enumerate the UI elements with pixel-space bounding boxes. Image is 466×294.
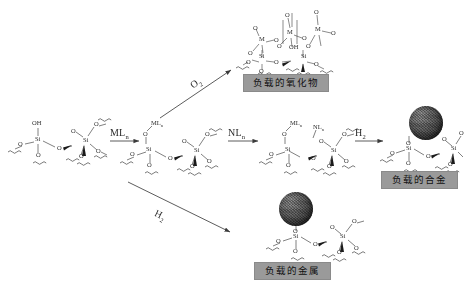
caption-supported-alloy: 负载的合金 xyxy=(381,171,458,189)
atom-o-4g: O xyxy=(248,50,253,57)
atom-o-4k: O xyxy=(274,59,279,66)
atom-o-3d: O xyxy=(311,155,316,162)
atom-o-5g: O xyxy=(354,245,359,252)
atom-ml-2: MLn xyxy=(151,120,163,129)
atom-o-2h: O xyxy=(190,163,195,170)
atom-si-6: Si xyxy=(331,147,336,154)
alloy-nanoparticle xyxy=(409,106,443,140)
atom-m-4a: M xyxy=(259,36,265,43)
atom-si-11: Si xyxy=(406,145,411,152)
atom-si-10: Si xyxy=(340,233,345,240)
atom-si-5: Si xyxy=(285,146,290,153)
atom-o-2g: O xyxy=(207,158,212,165)
atom-o-1g: O xyxy=(79,153,84,160)
atom-o-2f: O xyxy=(205,131,210,138)
reagent-label-h2-right: H2 xyxy=(355,128,366,141)
atom-o-2e: O xyxy=(182,138,187,145)
atom-m-4b: M xyxy=(287,29,293,36)
diagram-vector-layer xyxy=(0,0,466,294)
atom-o-5f: O xyxy=(352,218,357,225)
atom-o-1c: O xyxy=(57,145,62,152)
atom-o-1a: O xyxy=(18,141,23,148)
atom-o-5e: O xyxy=(330,224,335,231)
metal-nanoparticle xyxy=(279,192,313,226)
atom-m-4c: M xyxy=(315,26,321,33)
reaction-scheme-diagram: OH Si O O O Si O O O O MLn O Si O O O Si… xyxy=(0,0,466,294)
caption-supported-metal: 负载的金属 xyxy=(254,262,331,280)
atom-o-4f: O xyxy=(331,30,336,37)
atom-o-3b: O xyxy=(269,151,274,158)
atom-o-3a: O xyxy=(282,131,287,138)
atom-o-6f: O xyxy=(459,130,464,137)
atom-o-6g: O xyxy=(448,161,453,168)
atom-o-1d: O xyxy=(71,128,76,135)
reagent-label-ml-n: MLn xyxy=(110,128,129,141)
squiggle-marks-structure-5 xyxy=(266,248,365,262)
atom-o-5d: O xyxy=(313,241,318,248)
atom-o-6b: O xyxy=(390,150,395,157)
atom-oh-4: OH xyxy=(289,44,298,51)
atom-o-1b: O xyxy=(36,152,41,159)
atom-o-4a: O xyxy=(253,25,258,32)
atom-si-8: Si xyxy=(301,53,306,60)
atom-o-1f: O xyxy=(96,148,101,155)
atom-o-3f: O xyxy=(342,131,347,138)
atom-nl-3: NLn xyxy=(313,124,324,133)
atom-si-9: Si xyxy=(293,233,298,240)
atom-si-1: Si xyxy=(35,136,40,143)
atom-o-4h: O xyxy=(277,43,282,50)
atom-o-2b: O xyxy=(130,151,135,158)
atom-o-4l: O xyxy=(314,61,319,68)
atom-o-5b: O xyxy=(276,238,281,245)
atom-si-7: Si xyxy=(259,53,264,60)
atom-oh-1: OH xyxy=(32,120,41,127)
atom-si-3: Si xyxy=(146,146,151,153)
atom-si-2: Si xyxy=(83,137,88,144)
atom-o-4e: O xyxy=(302,35,307,42)
atom-o-2a: O xyxy=(143,131,148,138)
atom-si-4: Si xyxy=(194,147,199,154)
atom-ml-3: MLn xyxy=(290,120,302,129)
atom-o-4j: O xyxy=(246,59,251,66)
atom-o-3e: O xyxy=(319,138,324,145)
atom-si-12: Si xyxy=(451,145,456,152)
atom-o-3c: O xyxy=(286,162,291,169)
atom-o-3h: O xyxy=(327,163,332,170)
reagent-label-nl-n: NLn xyxy=(228,128,245,141)
atom-o-4b: O xyxy=(285,12,290,19)
caption-supported-oxide: 负载的氧化物 xyxy=(243,74,329,92)
atom-o-4c: O xyxy=(314,9,319,16)
atom-o-1e: O xyxy=(94,121,99,128)
atom-o-2d: O xyxy=(168,155,173,162)
atom-o-2c: O xyxy=(147,162,152,169)
atom-o-5c: O xyxy=(293,248,298,255)
atom-o-5h: O xyxy=(337,249,342,256)
atom-o-6c: O xyxy=(406,160,411,167)
atom-o-6d: O xyxy=(426,153,431,160)
atom-o-6e: O xyxy=(442,136,447,143)
structure-supported-metal-np xyxy=(273,221,364,251)
atom-o-3g: O xyxy=(344,158,349,165)
atom-o-4i: O xyxy=(306,43,311,50)
wedge-bonds-structure-4 xyxy=(282,61,305,72)
arrow-h2-bottom xyxy=(128,182,230,232)
